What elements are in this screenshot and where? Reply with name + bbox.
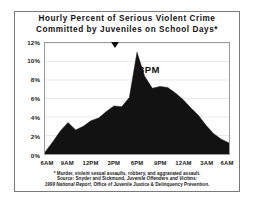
area-chart-svg [45, 43, 229, 154]
footnote-line-3: 1999 National Report, Office of Juvenile… [18, 182, 236, 187]
y-axis-tick-label: 0% [31, 152, 40, 159]
peak-annotation-label: 3PM [139, 64, 160, 75]
x-axis-tick-label: 12AM [175, 159, 191, 167]
footnote-source-prefix: Source: Snyder and Sickmund, [57, 176, 127, 181]
x-axis: 6AM9AM12PM3PM6PM9PM12AM3AM6AM [44, 159, 230, 169]
footnote-source-title-part2: 1999 National Report [45, 182, 91, 187]
chart-title: Hourly Percent of Serious Violent Crime … [18, 14, 236, 35]
y-axis-tick-label: 10% [27, 57, 40, 64]
y-axis-tick-label: 4% [31, 114, 40, 121]
down-triangle-marker-icon [111, 42, 119, 48]
footnote-source-title-part1: Juvenile Offenders and Victims: [127, 176, 197, 181]
x-axis-tick-label: 9PM [154, 159, 167, 167]
y-axis-tick-label: 8% [31, 76, 40, 83]
x-axis-tick-label: 6AM [221, 159, 234, 167]
footnote-source-suffix: , Office of Juvenile Justice & Delinquen… [91, 182, 210, 187]
plot-area [44, 42, 230, 155]
x-axis-tick-label: 3AM [200, 159, 213, 167]
y-axis-tick-label: 12% [27, 39, 40, 46]
x-axis-tick-label: 6AM [41, 159, 54, 167]
crime-area-series [45, 52, 229, 154]
y-axis-tick-label: 6% [31, 95, 40, 102]
x-axis-tick-label: 12PM [83, 159, 99, 167]
footnote: * Murder, violent sexual assaults, robbe… [18, 171, 236, 187]
y-axis: 12%10%8%6%4%2%0% [16, 36, 42, 160]
chart-title-line-1: Hourly Percent of Serious Violent Crime [18, 14, 236, 25]
x-axis-tick-label: 6PM [131, 159, 144, 167]
chart-figure: Hourly Percent of Serious Violent Crime … [0, 0, 255, 197]
x-axis-tick-label: 9AM [61, 159, 74, 167]
y-axis-tick-label: 2% [31, 133, 40, 140]
x-axis-tick-label: 3PM [107, 159, 120, 167]
chart-title-line-2: Committed by Juveniles on School Days* [18, 25, 236, 36]
